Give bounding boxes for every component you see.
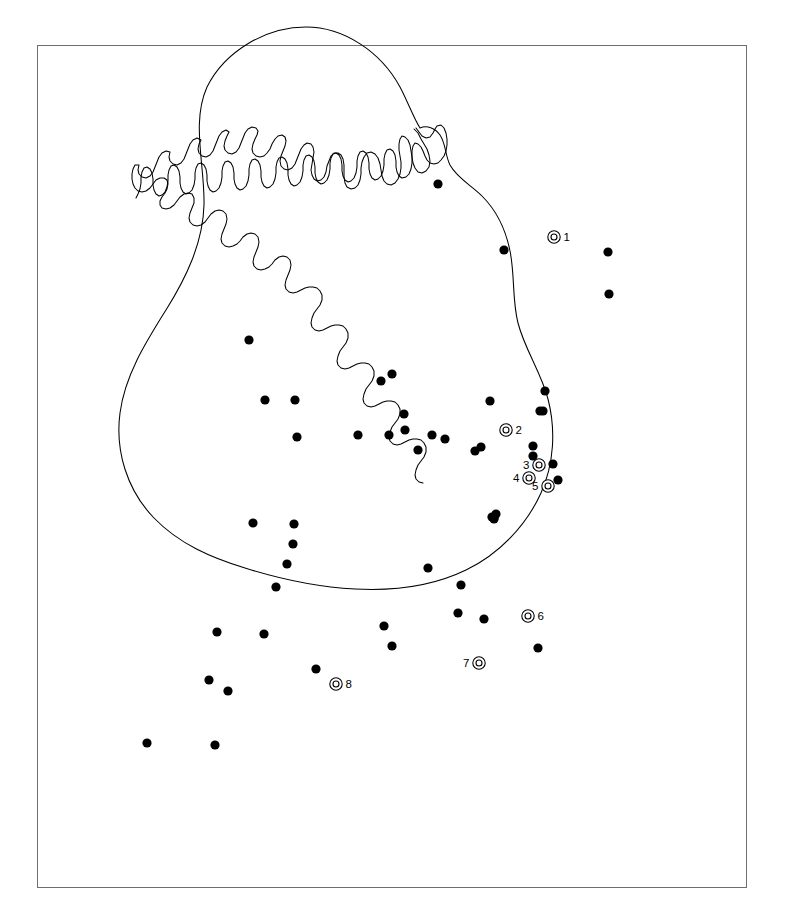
site-dot: [603, 247, 612, 256]
site-dot: [204, 675, 213, 684]
site-dot: [384, 430, 393, 439]
ring-marker: 5: [532, 480, 554, 492]
site-dot: [282, 559, 291, 568]
site-dot: [259, 629, 268, 638]
site-dot: [433, 179, 442, 188]
site-dot: [311, 664, 320, 673]
ring-inner-circle: [333, 681, 339, 687]
site-dot: [376, 376, 385, 385]
ring-inner-circle: [503, 427, 509, 433]
site-dot: [387, 369, 396, 378]
ring-marker: 3: [523, 459, 545, 471]
site-dot: [528, 441, 537, 450]
site-dot: [413, 445, 422, 454]
site-dot: [379, 621, 388, 630]
site-dot: [244, 335, 253, 344]
site-dot: [271, 582, 280, 591]
site-dot: [533, 643, 542, 652]
ireland-map: 12345678: [0, 0, 788, 923]
ring-marker-label: 5: [532, 480, 538, 492]
ring-marker-label: 2: [516, 424, 522, 436]
ring-inner-circle: [551, 234, 557, 240]
ring-inner-circle: [526, 475, 532, 481]
site-dot: [453, 608, 462, 617]
site-dot: [548, 459, 557, 468]
site-dot: [499, 245, 508, 254]
site-dot: [540, 386, 549, 395]
ring-marker-label: 7: [463, 657, 469, 669]
site-dot: [290, 395, 299, 404]
site-dot: [400, 425, 409, 434]
ring-marker-label: 4: [513, 472, 520, 484]
site-dot: [210, 740, 219, 749]
site-dot: [476, 442, 485, 451]
ring-marker: 7: [463, 657, 485, 669]
site-dot: [440, 434, 449, 443]
site-dot: [535, 406, 544, 415]
ring-marker-label: 6: [538, 610, 544, 622]
site-dot: [353, 430, 362, 439]
figure-container: 12345678: [0, 0, 788, 923]
site-dot: [289, 519, 298, 528]
site-dot: [399, 409, 408, 418]
ring-marker: 6: [522, 610, 544, 622]
ring-marker: 2: [500, 424, 522, 436]
ring-marker-label: 8: [346, 678, 352, 690]
ring-inner-circle: [545, 483, 551, 489]
site-dot: [387, 641, 396, 650]
ring-inner-circle: [536, 462, 542, 468]
ring-marker-label: 1: [564, 231, 570, 243]
site-dot: [260, 395, 269, 404]
site-dot: [223, 686, 232, 695]
ireland-outline-group: [132, 127, 430, 483]
site-dot: [604, 289, 613, 298]
site-dot: [288, 539, 297, 548]
site-dot: [456, 580, 465, 589]
ring-inner-circle: [525, 613, 531, 619]
site-dot: [212, 627, 221, 636]
ring-inner-circle: [476, 660, 482, 666]
site-dot: [423, 563, 432, 572]
site-dot: [485, 396, 494, 405]
site-dot: [248, 518, 257, 527]
site-dot: [292, 432, 301, 441]
site-dot: [479, 614, 488, 623]
ireland-outline-main: [132, 127, 430, 483]
site-dot: [553, 475, 562, 484]
ring-marker: 1: [548, 231, 570, 243]
site-dot: [427, 430, 436, 439]
ring-marker-label: 3: [523, 459, 529, 471]
site-dot: [487, 512, 496, 521]
site-dot: [142, 738, 151, 747]
ring-marker: 8: [330, 678, 352, 690]
ireland-coastline-output-scaled: [119, 27, 553, 589]
